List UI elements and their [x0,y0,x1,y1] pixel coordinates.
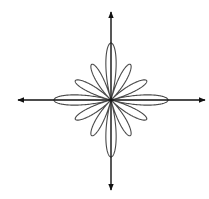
polar-rose-diagram [0,0,209,199]
